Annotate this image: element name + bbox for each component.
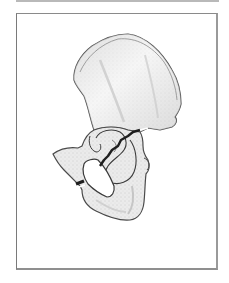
ilium — [74, 34, 181, 132]
hip-bone-illustration — [0, 0, 229, 283]
